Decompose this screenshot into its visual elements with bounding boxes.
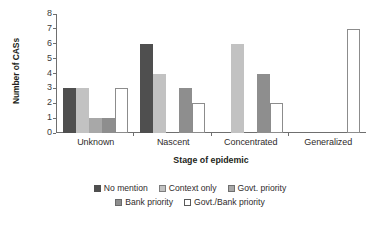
legend: No mentionContext onlyGovt. priority Ban… — [0, 181, 380, 209]
bar-slot — [295, 14, 308, 133]
legend-label: Context only — [169, 183, 217, 193]
bar-slot — [192, 14, 205, 133]
legend-label: Bank priority — [125, 197, 173, 207]
bar[interactable] — [102, 118, 115, 133]
legend-item[interactable]: Context only — [159, 183, 217, 193]
y-tick-mark — [53, 73, 56, 74]
legend-swatch-icon — [94, 185, 101, 192]
x-axis-tick-labels: UnknownNascentConcentratedGeneralized — [57, 137, 367, 147]
bar-slot — [308, 14, 321, 133]
bar-groups — [57, 14, 366, 133]
bar-slot — [244, 14, 257, 133]
bar-slot — [347, 14, 360, 133]
bar-slot — [115, 14, 128, 133]
bar-slot — [218, 14, 231, 133]
legend-item[interactable]: Bank priority — [115, 197, 173, 207]
legend-row: No mentionContext onlyGovt. priority — [0, 181, 380, 195]
bar[interactable] — [76, 88, 89, 133]
y-tick-label: 5 — [40, 53, 52, 64]
bar[interactable] — [63, 88, 76, 133]
legend-item[interactable]: Govt. priority — [228, 183, 287, 193]
legend-label: Govt./Bank priority — [194, 197, 265, 207]
y-tick-mark — [53, 88, 56, 89]
y-tick-label: 7 — [40, 23, 52, 34]
y-tick-label: 6 — [40, 38, 52, 49]
bar-group — [57, 14, 134, 133]
x-tick-mark — [211, 133, 212, 136]
y-tick-label: 4 — [40, 68, 52, 79]
legend-label: No mention — [104, 183, 148, 193]
bar-slot — [270, 14, 283, 133]
legend-item[interactable]: No mention — [94, 183, 148, 193]
y-tick-label: 0 — [40, 127, 52, 138]
bar[interactable] — [192, 103, 205, 133]
bar-slot — [179, 14, 192, 133]
y-tick-mark — [53, 58, 56, 59]
x-tick-mark — [133, 133, 134, 136]
y-tick-mark — [53, 43, 56, 44]
x-tick-label: Unknown — [57, 137, 135, 147]
legend-swatch-icon — [159, 185, 166, 192]
bar-slot — [63, 14, 76, 133]
bar-group — [212, 14, 289, 133]
bar-group — [134, 14, 211, 133]
x-tick-mark — [288, 133, 289, 136]
bar-slot — [89, 14, 102, 133]
y-tick-mark — [53, 14, 56, 15]
y-tick-label: 8 — [40, 8, 52, 19]
x-tick-label: Generalized — [290, 137, 368, 147]
legend-swatch-icon — [228, 185, 235, 192]
legend-label: Govt. priority — [238, 183, 287, 193]
y-tick-label: 2 — [40, 97, 52, 108]
x-tick-label: Concentrated — [212, 137, 290, 147]
legend-swatch-icon — [184, 199, 191, 206]
y-tick-mark — [53, 118, 56, 119]
bar-slot — [321, 14, 334, 133]
bar[interactable] — [153, 74, 166, 134]
bar-slot — [334, 14, 347, 133]
bar-slot — [231, 14, 244, 133]
bar[interactable] — [270, 103, 283, 133]
y-tick-label: 1 — [40, 112, 52, 123]
bar-slot — [140, 14, 153, 133]
y-tick-mark — [53, 103, 56, 104]
bar[interactable] — [140, 44, 153, 133]
bar[interactable] — [231, 44, 244, 133]
bar[interactable] — [179, 88, 192, 133]
bar[interactable] — [347, 29, 360, 133]
bar-chart: Number of CASs 012345678 UnknownNascentC… — [0, 0, 380, 226]
legend-swatch-icon — [115, 199, 122, 206]
bar-slot — [257, 14, 270, 133]
bar-slot — [153, 14, 166, 133]
bar-slot — [102, 14, 115, 133]
plot-area: 012345678 — [56, 14, 366, 133]
y-tick-mark — [53, 133, 56, 134]
bar[interactable] — [89, 118, 102, 133]
legend-row: Bank priorityGovt./Bank priority — [0, 195, 380, 209]
x-axis-title: Stage of epidemic — [56, 155, 366, 165]
y-tick-mark — [53, 28, 56, 29]
bar-slot — [76, 14, 89, 133]
x-tick-label: Nascent — [135, 137, 213, 147]
y-axis-title: Number of CASs — [11, 11, 21, 131]
bar[interactable] — [115, 88, 128, 133]
bar-slot — [166, 14, 179, 133]
bar[interactable] — [257, 74, 270, 134]
legend-item[interactable]: Govt./Bank priority — [184, 197, 265, 207]
y-tick-label: 3 — [40, 82, 52, 93]
bar-group — [289, 14, 366, 133]
